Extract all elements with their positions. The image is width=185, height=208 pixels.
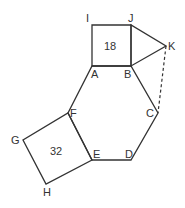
vertex-label-d: D: [125, 148, 133, 160]
vertex-label-b: B: [124, 68, 131, 80]
vertex-label-g: G: [11, 134, 20, 146]
vertex-label-a: A: [91, 68, 99, 80]
vertex-label-c: C: [146, 107, 154, 119]
triangle-bjk: [131, 25, 166, 66]
vertex-label-h: H: [43, 186, 51, 198]
hexagon-abcdef: [68, 66, 158, 160]
vertex-label-e: E: [93, 148, 100, 160]
area-label-abji: 18: [104, 40, 116, 52]
vertex-label-f: F: [70, 107, 77, 119]
vertex-label-j: J: [128, 12, 134, 24]
vertex-label-i: I: [86, 12, 89, 24]
area-label-efgh: 32: [50, 145, 62, 157]
geometry-diagram: 18 32 I J K A B C D E F G H: [0, 0, 185, 208]
vertex-label-k: K: [168, 40, 176, 52]
dashed-segment-kc: [158, 46, 166, 113]
